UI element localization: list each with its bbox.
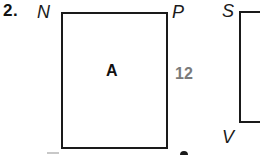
side-length-label: 12: [175, 66, 193, 82]
vertex-label-n: N: [37, 3, 50, 21]
vertex-label-p: P: [172, 3, 184, 21]
vertex-label-v: V: [222, 128, 234, 146]
vertex-label-s: S: [222, 2, 234, 20]
rectangle-a: [61, 12, 168, 149]
problem-number: 2.: [3, 2, 18, 20]
rectangle-b: [239, 11, 260, 123]
rectangle-a-label: A: [106, 63, 118, 79]
vertex-label-bottom-right-clipped: [180, 151, 188, 155]
vertex-label-bottom-left-clipped: [47, 152, 59, 154]
